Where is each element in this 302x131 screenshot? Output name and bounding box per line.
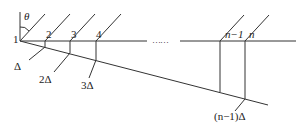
point-label-1: 1 [13,34,19,45]
offset-label-2delta: 2Δ [39,74,52,85]
theta-arc [20,27,29,31]
leader-delta [29,47,45,60]
ellipsis: …… [152,36,168,45]
theta-label: θ [24,11,29,22]
diagram-canvas [0,0,302,131]
point-label-4: 4 [96,29,102,40]
point-label-3: 3 [71,29,77,40]
offset-label-3delta: 3Δ [81,80,94,91]
leader-3delta [89,60,96,78]
point-label-n: n [249,29,255,40]
offset-label-delta: Δ [14,61,21,72]
offset-label-n-minus-1-delta: (n−1)Δ [214,111,246,122]
point-label-2: 2 [46,29,52,40]
leader-2delta [54,53,70,72]
point-label-n-minus-1: n−1 [225,29,243,40]
sloped-line [20,41,268,105]
